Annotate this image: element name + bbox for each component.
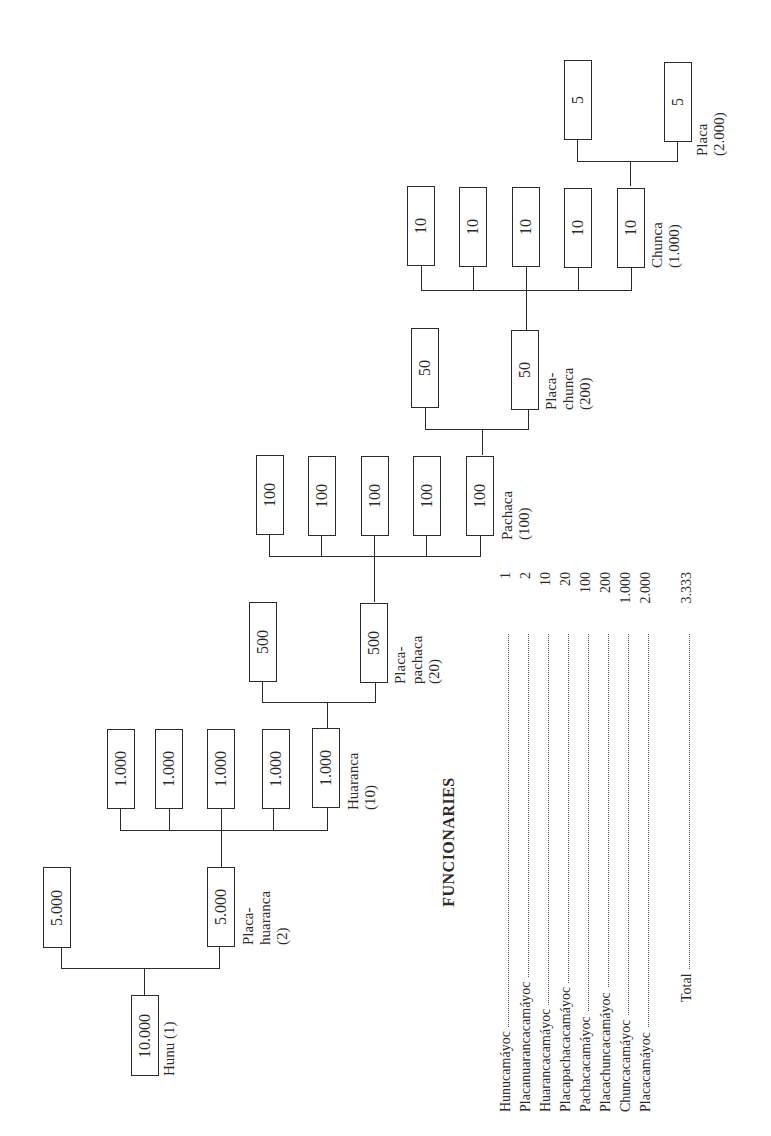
box-value: 500 bbox=[366, 631, 382, 655]
label-placa: Placa(2.000) bbox=[694, 112, 728, 156]
box-placapachaca-1: 500 bbox=[249, 602, 277, 682]
box-pachaca-2: 100 bbox=[308, 456, 336, 536]
box-value: 10 bbox=[570, 220, 586, 236]
box-placachunca-1: 50 bbox=[411, 328, 439, 408]
connector bbox=[61, 948, 62, 968]
box-placa-1: 5 bbox=[564, 60, 592, 140]
label-placapachaca: Placa-pachaca(20) bbox=[392, 636, 443, 684]
table-row: Pachacacamáyoc 100 bbox=[576, 572, 595, 1112]
connector bbox=[262, 702, 376, 703]
connector bbox=[526, 290, 527, 330]
connector bbox=[120, 809, 121, 830]
connector bbox=[425, 429, 529, 430]
connector bbox=[273, 809, 274, 830]
connector bbox=[631, 268, 632, 290]
table-row: Placanuarancacamáyoc 2 bbox=[516, 572, 535, 1112]
box-huaranca-5: 1.000 bbox=[312, 728, 340, 808]
connector bbox=[374, 536, 375, 556]
connector bbox=[219, 947, 220, 968]
box-value: 1.000 bbox=[161, 751, 177, 787]
box-value: 50 bbox=[517, 362, 533, 378]
table-row: Placapachacacamáyoc 20 bbox=[556, 572, 575, 1112]
box-chunca-2: 10 bbox=[459, 187, 487, 267]
box-value: 10 bbox=[623, 220, 639, 236]
connector bbox=[221, 809, 222, 830]
connector bbox=[269, 535, 270, 556]
box-value: 1.000 bbox=[113, 751, 129, 787]
connector bbox=[578, 268, 579, 290]
box-value: 1.000 bbox=[318, 750, 334, 786]
table-row: Hunucamáyoc 1 bbox=[496, 572, 515, 1112]
connector bbox=[120, 830, 328, 831]
box-value: 5 bbox=[670, 98, 686, 106]
connector bbox=[526, 267, 527, 290]
connector bbox=[221, 830, 222, 868]
box-value: 50 bbox=[417, 360, 433, 376]
connector bbox=[374, 556, 375, 602]
box-value: 100 bbox=[367, 484, 383, 508]
box-value: 100 bbox=[314, 484, 330, 508]
box-huaranca-2: 1.000 bbox=[155, 729, 183, 809]
box-huaranca-4: 1.000 bbox=[262, 729, 290, 809]
box-huaranca-1: 1.000 bbox=[107, 729, 135, 809]
connector bbox=[473, 267, 474, 290]
connector bbox=[321, 536, 322, 556]
label-placahuaranca: Placa-huaranca(2) bbox=[240, 891, 291, 945]
connector bbox=[327, 808, 328, 830]
label-chunca: Chunca(1.000) bbox=[649, 222, 683, 268]
table-row: Chuncacamáyoc 1.000 bbox=[616, 572, 635, 1112]
connector bbox=[528, 410, 529, 429]
box-value: 10 bbox=[413, 218, 429, 234]
box-chunca-4: 10 bbox=[564, 188, 592, 268]
label-placachunca: Placa-chunca(200) bbox=[543, 368, 594, 410]
box-value: 10 bbox=[518, 219, 534, 235]
box-value: 1.000 bbox=[213, 751, 229, 787]
box-placahuaranca-1: 5.000 bbox=[43, 867, 71, 948]
leader-dots bbox=[689, 634, 690, 1002]
connector bbox=[677, 142, 678, 161]
box-huaranca-3: 1.000 bbox=[207, 729, 235, 809]
box-pachaca-4: 100 bbox=[413, 456, 441, 536]
box-value: 100 bbox=[262, 483, 278, 507]
label-hunu: Hunu (1) bbox=[161, 1021, 178, 1076]
box-chunca-3: 10 bbox=[512, 187, 540, 267]
box-value: 1.000 bbox=[268, 751, 284, 787]
box-hunu: 10.000 bbox=[131, 995, 159, 1076]
box-placachunca-2: 50 bbox=[511, 330, 539, 410]
box-value: 500 bbox=[255, 630, 271, 654]
table-title: FUNCIONARIES bbox=[440, 572, 458, 1112]
connector bbox=[169, 809, 170, 830]
table-row: Huarancacamáyoc 10 bbox=[536, 572, 555, 1112]
table-row: Placacamáyoc 2.000 bbox=[636, 572, 655, 1112]
connector bbox=[421, 266, 422, 290]
connector bbox=[425, 408, 426, 429]
connector bbox=[327, 702, 328, 728]
table-row: Placachuncacamáyoc 200 bbox=[596, 572, 615, 1112]
box-placapachaca-2: 500 bbox=[360, 603, 388, 683]
box-chunca-1: 10 bbox=[407, 186, 435, 266]
label-huaranca: Huaranca(10) bbox=[345, 753, 379, 810]
table-total-row: Total 3.333 bbox=[677, 572, 696, 1112]
box-pachaca-3: 100 bbox=[361, 456, 389, 536]
connector bbox=[426, 536, 427, 556]
connector bbox=[630, 161, 631, 186]
connector bbox=[144, 968, 145, 995]
connector bbox=[577, 161, 678, 162]
connector bbox=[577, 140, 578, 161]
box-chunca-5: 10 bbox=[617, 188, 645, 268]
box-value: 5 bbox=[570, 96, 586, 104]
functionaries-table: FUNCIONARIES Hunucamáyoc 1 Placanuaranca… bbox=[440, 452, 760, 1112]
box-placa-2: 5 bbox=[664, 62, 692, 142]
box-value: 10 bbox=[465, 219, 481, 235]
box-value: 100 bbox=[419, 484, 435, 508]
connector bbox=[61, 968, 220, 969]
box-value: 10.000 bbox=[137, 1014, 153, 1058]
box-value: 5.000 bbox=[213, 889, 229, 925]
box-pachaca-1: 100 bbox=[256, 455, 284, 535]
box-value: 5.000 bbox=[49, 890, 65, 926]
connector bbox=[262, 682, 263, 702]
box-placahuaranca-2: 5.000 bbox=[207, 867, 235, 947]
connector bbox=[375, 683, 376, 702]
